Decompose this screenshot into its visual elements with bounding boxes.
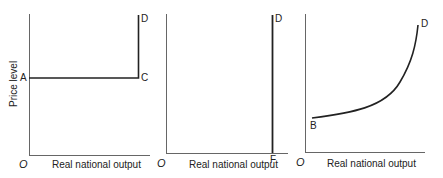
diagram-canvas [0, 0, 443, 178]
panel-1-origin: O [19, 159, 28, 169]
panel-3-supply-curve [312, 25, 418, 118]
panel-1-point-a: A [20, 73, 27, 83]
panel-1-x-axis-label: Real national output [52, 160, 141, 170]
panel-3-axes [305, 14, 425, 153]
panel-1-point-c: C [141, 73, 148, 83]
panel-3-origin: O [296, 157, 305, 167]
panel-3-x-axis-label: Real national output [327, 159, 416, 169]
panel-2-x-axis-label: Real national output [189, 160, 278, 170]
panel-2-origin: O [157, 158, 166, 168]
panel-3-point-b: B [310, 121, 317, 131]
panel-2-point-d: D [275, 14, 282, 24]
panel-1-point-d: D [141, 14, 148, 24]
panel-2-axes [166, 14, 288, 154]
panel-1-axes [29, 14, 150, 156]
panel-1-supply-curve [29, 15, 139, 78]
panel-1-y-axis-label: Price level [8, 61, 19, 107]
panel-3-point-d: D [421, 19, 428, 29]
